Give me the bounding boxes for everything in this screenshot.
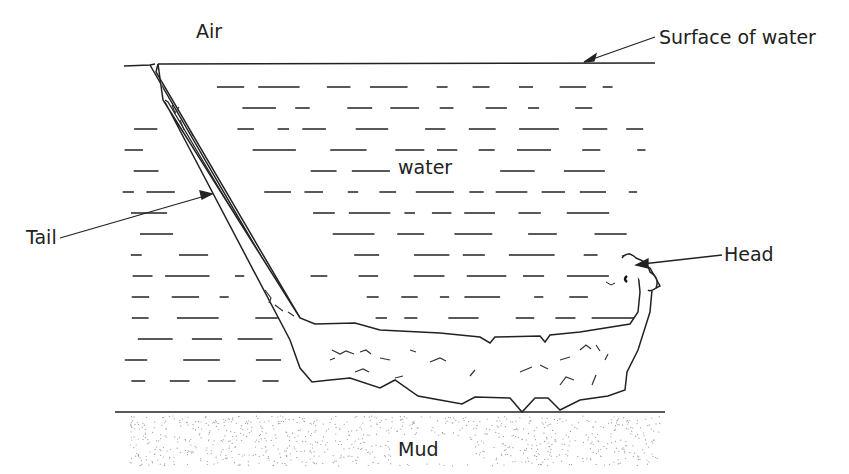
water-surface-line xyxy=(124,63,655,66)
head-mark xyxy=(606,282,615,285)
label-water: water xyxy=(398,156,452,178)
label-tail: Tail xyxy=(26,226,57,248)
label-mud: Mud xyxy=(398,438,439,460)
label-surface-of-water: Surface of water xyxy=(659,26,816,48)
label-head: Head xyxy=(724,243,774,265)
mud-texture xyxy=(130,415,661,466)
head-pointer xyxy=(642,255,722,264)
diagram-canvas xyxy=(0,0,849,474)
surface-arrowhead-icon xyxy=(584,54,596,62)
larva-body xyxy=(158,64,660,412)
tail-outline xyxy=(150,64,308,330)
eye-icon xyxy=(625,276,627,282)
tail-pointer xyxy=(60,196,205,238)
surface-pointer xyxy=(590,37,655,60)
tail-arrowhead-icon xyxy=(200,191,212,199)
label-air: Air xyxy=(196,20,222,42)
